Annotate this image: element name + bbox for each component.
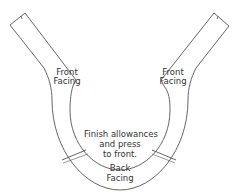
label-line: Facing — [158, 77, 188, 86]
left-strip-top-edge — [10, 13, 25, 25]
label-line: to front. — [84, 149, 156, 159]
label-line: Finish allowances — [84, 129, 156, 139]
label-line: Facing — [52, 77, 82, 86]
label-line: Back — [100, 163, 140, 173]
right-strip-top-edge — [214, 13, 229, 26]
front-facing-left-label: Front Facing — [52, 68, 82, 86]
label-line: Facing — [100, 173, 140, 183]
front-facing-right-label: Front Facing — [158, 68, 188, 86]
back-facing-label: Back Facing — [100, 163, 140, 183]
left-seam-line — [62, 150, 86, 160]
label-line: and press — [84, 139, 156, 149]
right-top-notch — [217, 16, 218, 19]
instruction-label: Finish allowances and press to front. — [84, 129, 156, 159]
left-top-notch — [21, 16, 22, 19]
